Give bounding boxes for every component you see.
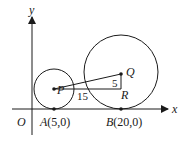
point-a-coords: (5,0) xyxy=(47,115,70,129)
point-p xyxy=(52,87,56,91)
point-b-coords: (20,0) xyxy=(113,115,142,129)
qr-length-label: 5 xyxy=(112,77,118,89)
point-a xyxy=(52,107,56,111)
point-b-label: B(20,0) xyxy=(106,115,142,129)
y-axis-label: y xyxy=(28,3,35,17)
point-b xyxy=(119,107,123,111)
pr-length-label: 15 xyxy=(77,90,89,102)
point-r-label: R xyxy=(120,88,129,102)
origin-label: O xyxy=(17,115,26,129)
point-p-label: P xyxy=(56,83,65,97)
x-axis-label: x xyxy=(171,102,178,116)
point-a-label: A(5,0) xyxy=(39,115,70,129)
diagram-canvas: y x O P Q R 5 15 A(5,0) B(20,0) xyxy=(0,0,186,145)
point-q-label: Q xyxy=(126,65,135,79)
point-q xyxy=(119,72,123,76)
